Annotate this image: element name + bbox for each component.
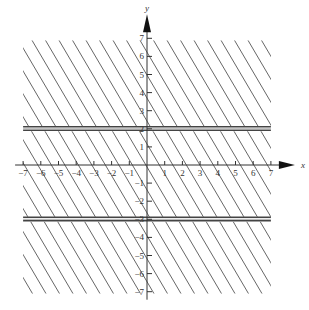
hatch-line [32, 40, 181, 293]
x-tick-label: 4 [216, 168, 221, 178]
hatch-line [86, 40, 235, 293]
x-tick-label: 6 [251, 168, 256, 178]
hatch-line [0, 40, 6, 293]
y-axis-label: y [144, 3, 149, 13]
y-tick-label: 6 [140, 51, 145, 61]
y-tick-label: 1 [140, 142, 145, 152]
y-tick-label: −4 [134, 232, 144, 242]
y-tick-label: −2 [134, 196, 144, 206]
hatch-line [0, 40, 19, 293]
y-tick-label: 4 [140, 88, 145, 98]
x-axis-label: x [300, 160, 305, 170]
x-tick-label: 1 [162, 168, 167, 178]
plot-area: xy−7−6−5−4−3−2−11234567−7−6−5−4−3−2−1123… [0, 0, 308, 310]
hatch-line [221, 40, 308, 293]
y-tick-label: −7 [134, 287, 144, 297]
y-tick-label: 3 [140, 106, 145, 116]
x-tick-label: 3 [198, 168, 203, 178]
hatch-line [0, 40, 87, 293]
hatch-line [0, 40, 114, 293]
x-tick-label: 2 [180, 168, 185, 178]
hatch-line [0, 40, 73, 293]
x-tick-label: −6 [36, 168, 46, 178]
y-tick-label: −6 [134, 269, 144, 279]
hatch-line [140, 40, 289, 293]
hatch-line [5, 40, 154, 293]
x-tick-label: 7 [269, 168, 274, 178]
y-axis-arrow-icon [143, 14, 151, 32]
hatch-line [0, 40, 141, 293]
x-tick-label: −1 [125, 168, 135, 178]
hatch-line [208, 40, 309, 293]
y-tick-label: 2 [140, 124, 145, 134]
hatching [0, 40, 308, 293]
y-tick-label: −1 [134, 178, 144, 188]
x-tick-label: −5 [54, 168, 64, 178]
x-tick-label: 5 [233, 168, 238, 178]
chart: xy−7−6−5−4−3−2−11234567−7−6−5−4−3−2−1123… [0, 0, 308, 310]
x-axis-arrow-icon [279, 161, 295, 169]
x-tick-label: −4 [71, 168, 81, 178]
x-tick-label: −2 [107, 168, 117, 178]
y-tick-label: −5 [134, 251, 144, 261]
hatch-line [19, 40, 168, 293]
y-tick-label: 5 [140, 70, 145, 80]
hatch-line [235, 40, 309, 293]
hatch-line [194, 40, 308, 293]
x-tick-label: −7 [18, 168, 28, 178]
hatch-line [0, 40, 100, 293]
hatch-line [46, 40, 195, 293]
hatch-line [100, 40, 249, 293]
x-tick-label: −3 [89, 168, 99, 178]
y-tick-label: −3 [134, 214, 144, 224]
y-tick-label: 7 [140, 33, 145, 43]
hatch-line [289, 40, 309, 293]
